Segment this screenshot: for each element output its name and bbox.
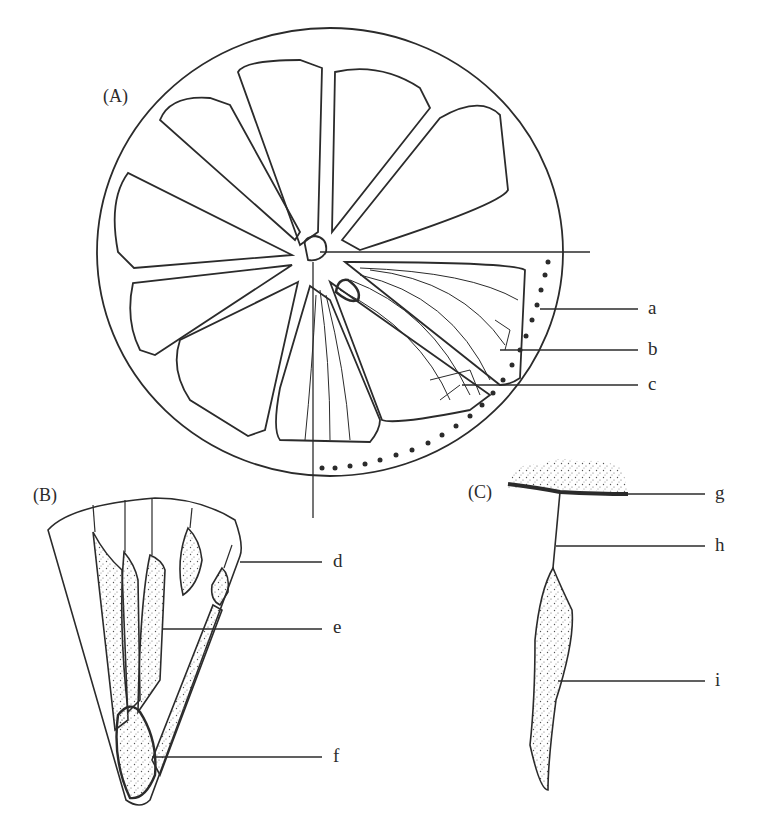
segment-2 bbox=[332, 69, 430, 232]
callout-i: i bbox=[715, 670, 720, 689]
leader-lines-c bbox=[556, 494, 705, 681]
segment-5 bbox=[115, 173, 292, 268]
segment-1 bbox=[238, 60, 322, 245]
vesicle-detail bbox=[508, 459, 705, 790]
vesicle-3 bbox=[138, 555, 165, 712]
oil-glands bbox=[320, 260, 551, 471]
panel-label-c: (C) bbox=[468, 483, 492, 501]
callout-c: c bbox=[648, 374, 656, 393]
panel-label-b: (B) bbox=[33, 486, 57, 504]
vesicle-5 bbox=[212, 568, 229, 605]
segment-9 bbox=[330, 282, 490, 421]
vesicle-4 bbox=[180, 528, 202, 595]
seed bbox=[117, 707, 156, 798]
segment-7 bbox=[177, 282, 298, 436]
panel-label-a: (A) bbox=[103, 87, 128, 105]
callout-d: d bbox=[333, 551, 343, 570]
segment-3 bbox=[342, 106, 508, 250]
citrus-anatomy-diagram bbox=[0, 0, 763, 828]
vesicle-stalk bbox=[553, 492, 560, 568]
segment-4 bbox=[160, 98, 300, 240]
segment-detail bbox=[48, 498, 322, 805]
callout-g: g bbox=[715, 483, 725, 502]
segment-6 bbox=[130, 265, 292, 355]
juice-sac bbox=[530, 568, 572, 790]
callout-a: a bbox=[648, 298, 656, 317]
callout-f: f bbox=[333, 746, 339, 765]
callout-b: b bbox=[648, 339, 658, 358]
segment-10 bbox=[345, 262, 525, 385]
callout-e: e bbox=[333, 617, 341, 636]
callout-h: h bbox=[715, 535, 725, 554]
fruit-cross-section bbox=[97, 28, 638, 518]
